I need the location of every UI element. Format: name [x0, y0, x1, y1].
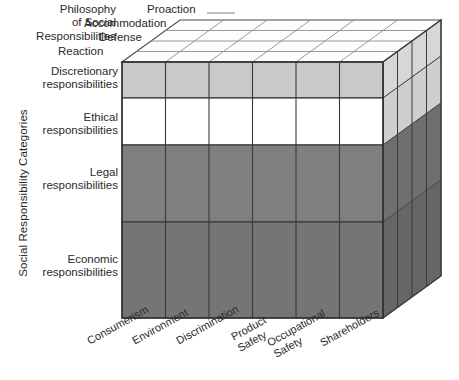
cube-diagram [0, 0, 459, 380]
cube-front-face [122, 62, 383, 318]
figure-canvas: Social Responsibility Categories Philoso… [0, 0, 459, 380]
cube-right-face [383, 20, 441, 318]
